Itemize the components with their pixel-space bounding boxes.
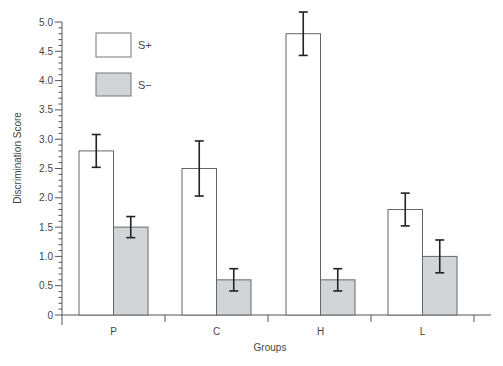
y-axis: 00.51.01.52.02.53.03.54.04.55.0 (39, 17, 62, 326)
bar-chart: 00.51.01.52.02.53.03.54.04.55.0 PCHL S+ … (0, 0, 503, 366)
bar-p-s-plus (79, 151, 114, 315)
x-tick-label-h: H (317, 326, 324, 337)
bar-h-s-plus (286, 34, 321, 315)
y-tick-label: 1.0 (39, 251, 53, 262)
y-tick-label: 4.0 (39, 75, 53, 86)
y-tick-label: 0 (47, 310, 53, 321)
legend-label-s-minus: S− (138, 79, 152, 91)
x-tick-label-l: L (420, 326, 426, 337)
legend-swatch-s-minus (96, 73, 131, 96)
x-axis: PCHL (62, 315, 491, 337)
y-axis-title: Discrimination Score (12, 112, 23, 204)
legend: S+ S− (96, 33, 152, 96)
y-tick-label: 2.0 (39, 192, 53, 203)
bar-p-s-minus (114, 227, 149, 315)
y-tick-label: 5.0 (39, 17, 53, 28)
legend-label-s-plus: S+ (138, 39, 152, 51)
legend-swatch-s-plus (96, 33, 131, 57)
y-tick-label: 3.0 (39, 134, 53, 145)
y-tick-label: 1.5 (39, 222, 53, 233)
y-tick-label: 0.5 (39, 280, 53, 291)
bars (79, 34, 457, 315)
x-axis-title: Groups (254, 342, 287, 353)
y-tick-label: 2.5 (39, 163, 53, 174)
y-tick-label: 3.5 (39, 104, 53, 115)
y-tick-label: 4.5 (39, 46, 53, 57)
x-tick-label-p: P (110, 326, 117, 337)
x-tick-label-c: C (213, 326, 220, 337)
